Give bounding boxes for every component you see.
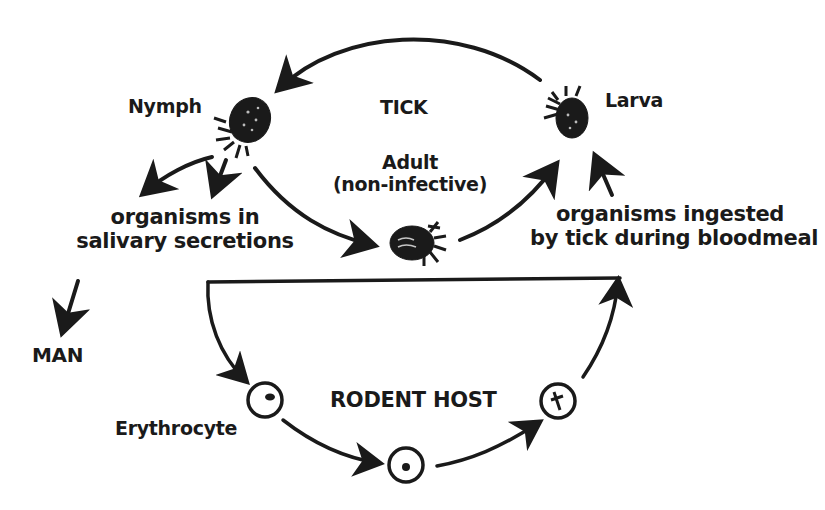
erythrocyte-cell-1 xyxy=(248,383,282,417)
ingested-note-line1: organisms ingested xyxy=(530,202,810,226)
tick-life-cycle-diagram: Nymph Larva TICK Adult (non-infective) o… xyxy=(0,0,825,510)
nymph-label: Nymph xyxy=(128,96,202,118)
arrow-salivary-to-man xyxy=(63,281,78,330)
larva-label: Larva xyxy=(605,90,663,112)
adult-label-line2: (non-infective) xyxy=(320,174,500,196)
nymph-tick-icon xyxy=(214,91,278,158)
arrow-ingested-to-larva xyxy=(596,158,612,195)
salivary-note-line2: salivary secretions xyxy=(55,229,315,253)
tick-title: TICK xyxy=(380,97,428,119)
erythrocyte-label: Erythrocyte xyxy=(115,418,237,440)
erythrocyte-cell-2 xyxy=(389,448,423,482)
arrow-larva-to-nymph xyxy=(280,39,540,88)
adult-label-line1: Adult xyxy=(320,152,500,174)
salivary-note-line1: organisms in xyxy=(55,205,315,229)
salivary-note: organisms in salivary secretions xyxy=(55,205,315,253)
arrow-erythrocyte-to-cell2 xyxy=(283,420,378,463)
arrow-cell3-to-bracket xyxy=(583,282,618,377)
ingested-note-line2: by tick during bloodmeal xyxy=(530,226,810,250)
arrow-nymph-to-salivary xyxy=(214,160,226,192)
arrow-nymph-to-left xyxy=(145,157,212,192)
adult-tick-icon xyxy=(390,222,446,266)
arrow-bracket-to-erythrocyte xyxy=(208,282,245,380)
erythrocyte-cell-3 xyxy=(541,384,575,418)
man-label: MAN xyxy=(32,344,83,367)
host-bracket-line xyxy=(208,278,620,282)
arrow-cell2-to-cell3 xyxy=(437,423,538,466)
adult-label: Adult (non-infective) xyxy=(320,152,500,196)
larva-tick-icon xyxy=(544,86,588,138)
ingested-note: organisms ingested by tick during bloodm… xyxy=(530,202,810,250)
rodent-host-label: RODENT HOST xyxy=(330,388,497,412)
